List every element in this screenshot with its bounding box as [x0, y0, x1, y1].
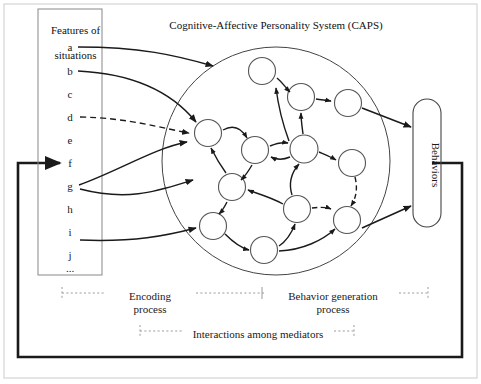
- figure-canvas: Features of situations a b c d e f g h i…: [0, 0, 481, 384]
- feature-item-i: i: [39, 226, 101, 238]
- output-arrows: [362, 108, 411, 228]
- feature-item-f: f: [39, 157, 101, 169]
- encoding-process-label: Encoding process: [105, 290, 195, 315]
- mediating-unit: [288, 84, 315, 111]
- behavior-generation-process-label: Behavior generation process: [268, 290, 398, 315]
- mediating-unit: [200, 213, 227, 240]
- feature-item-g: g: [39, 180, 101, 192]
- mediating-unit: [242, 137, 269, 164]
- behaviors-label: Behaviors: [430, 105, 442, 225]
- encoding-line2: process: [134, 303, 167, 315]
- encoding-line1: Encoding: [129, 290, 171, 302]
- feature-item-j: j: [39, 249, 101, 261]
- mediating-unit: [334, 207, 361, 234]
- feature-item-ellipsis: ...: [39, 262, 101, 274]
- feature-item-h: h: [39, 203, 101, 215]
- interactions-among-mediators-label: Interactions among mediators: [183, 328, 333, 341]
- mediating-unit: [335, 90, 362, 117]
- feature-item-c: c: [39, 88, 101, 100]
- mediating-units: [195, 58, 366, 264]
- behavior-generation-line1: Behavior generation: [288, 290, 378, 302]
- feature-item-b: b: [39, 65, 101, 77]
- behavior-generation-line2: process: [317, 303, 350, 315]
- feature-item-a: a: [39, 41, 101, 53]
- feature-item-d: d: [39, 111, 101, 123]
- mediating-unit: [290, 135, 318, 163]
- feature-item-e: e: [39, 134, 101, 146]
- mediating-unit: [339, 150, 366, 177]
- caps-title: Cognitive-Affective Personality System (…: [136, 19, 416, 31]
- mediating-unit: [249, 58, 276, 85]
- mediating-unit: [251, 237, 278, 264]
- mediating-unit: [195, 120, 222, 147]
- mediating-unit: [219, 174, 246, 201]
- features-title-line1: Features of: [51, 24, 100, 36]
- mediating-unit: [284, 196, 311, 223]
